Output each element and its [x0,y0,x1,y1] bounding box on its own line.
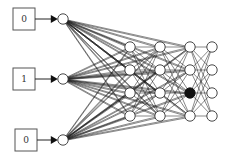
output-node-3 [207,111,217,121]
hidden-1-node-2 [125,88,135,98]
hidden-1-node-1 [125,65,135,75]
output-node-0 [207,42,217,52]
input-value-label: 0 [21,14,27,24]
hidden-3-node-1 [185,65,195,75]
input-value-label: 1 [21,74,27,84]
input-box-2: 0 [15,129,37,151]
hidden-1-node-3 [125,111,135,121]
arrow-head-icon [51,136,58,144]
input-value-label: 0 [23,135,29,145]
hidden-2-node-3 [155,111,165,121]
arrow-head-icon [51,75,58,83]
output-node-1 [207,65,217,75]
hidden-1-node-0 [125,42,135,52]
input-node-2 [58,135,68,145]
hidden-2-node-0 [155,42,165,52]
hidden-3-node-2-active [185,88,195,98]
connection-edge [63,20,160,117]
hidden-2-node-2 [155,88,165,98]
input-box-0: 0 [13,8,35,30]
hidden-2-node-1 [155,65,165,75]
hidden-3-node-3 [185,111,195,121]
connection-edge [63,94,160,141]
input-node-1 [58,74,68,84]
output-node-2 [207,88,217,98]
input-node-0 [58,14,68,24]
hidden-3-node-0 [185,42,195,52]
input-arrows [35,15,58,144]
input-box-1: 1 [13,68,35,90]
input-boxes: 0 1 0 [13,8,37,151]
connection-edge [63,20,130,117]
connections [63,19,212,141]
neural-network-diagram: 0 1 0 [0,0,231,161]
arrow-head-icon [51,15,58,23]
